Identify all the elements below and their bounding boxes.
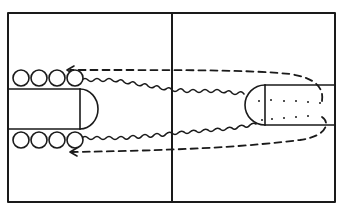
top-player-line <box>13 70 83 86</box>
top-dribble-path <box>82 79 244 95</box>
player <box>13 132 29 148</box>
player <box>31 132 47 148</box>
left-free-throw-arc <box>80 89 98 129</box>
player <box>49 70 65 86</box>
player <box>13 70 29 86</box>
bottom-dribble-path <box>82 123 256 139</box>
left-key <box>8 89 98 129</box>
dotted-zone <box>258 99 321 121</box>
player <box>67 70 83 86</box>
right-key <box>245 85 335 125</box>
bottom-player-line <box>13 132 83 148</box>
player <box>49 132 65 148</box>
player <box>31 70 47 86</box>
player <box>67 132 83 148</box>
drill-diagram <box>0 0 341 213</box>
bottom-return-path <box>72 117 326 152</box>
